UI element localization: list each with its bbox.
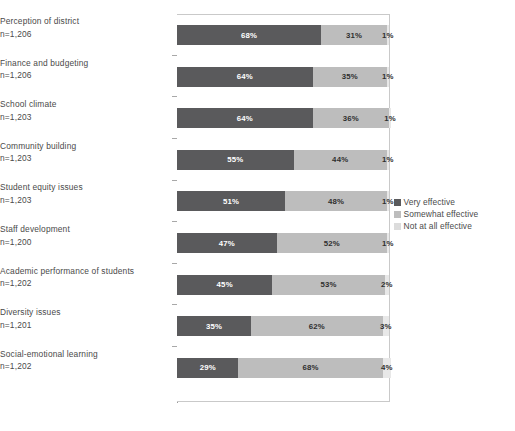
legend-swatch-icon — [394, 199, 401, 206]
bar-segment-value: 1% — [382, 239, 394, 248]
bar-segment-value: 1% — [384, 114, 396, 123]
y-axis-tick — [172, 138, 177, 139]
plot-area: 68%31%1%64%35%1%64%36%1%55%44%1%51%48%1%… — [177, 14, 390, 402]
bar-row: 64%36%1% — [177, 108, 389, 128]
bar-segment: 52% — [277, 233, 387, 253]
bar-segment-value: 1% — [382, 197, 394, 206]
y-axis-tick — [172, 96, 177, 97]
bar-segment-value: 45% — [217, 280, 233, 289]
category-label-count: n=1,200 — [0, 236, 166, 249]
category-label: Community buildingn=1,203 — [0, 140, 168, 165]
bar-row: 47%52%1% — [177, 233, 389, 253]
category-label: Social-emotional learningn=1,202 — [0, 348, 168, 373]
category-label-count: n=1,203 — [0, 152, 166, 165]
y-axis-tick — [172, 346, 177, 347]
y-axis-tick — [172, 263, 177, 264]
bar-segment-value: 64% — [237, 72, 253, 81]
bar-segment: 64% — [177, 67, 313, 87]
bar-segment-value: 1% — [382, 31, 394, 40]
bar-segment: 68% — [177, 25, 321, 45]
y-axis-tick — [172, 55, 177, 56]
bar-segment: 45% — [177, 275, 272, 295]
y-axis-tick — [172, 304, 177, 305]
bar-segment-value: 48% — [328, 197, 344, 206]
bar-segment-value: 4% — [381, 363, 393, 372]
category-label: Finance and budgetingn=1,206 — [0, 57, 168, 82]
bar-segment: 1% — [387, 191, 389, 211]
category-label: School climaten=1,203 — [0, 98, 168, 123]
category-label-name: School climate — [0, 98, 166, 111]
bar-segment-value: 64% — [237, 114, 253, 123]
bar-segment-value: 68% — [302, 363, 318, 372]
bar-segment: 31% — [321, 25, 387, 45]
bar-segment: 1% — [387, 233, 389, 253]
bar-segment: 51% — [177, 191, 285, 211]
bar-row: 64%35%1% — [177, 67, 389, 87]
bar-segment-value: 51% — [223, 197, 239, 206]
category-label-count: n=1,203 — [0, 194, 166, 207]
legend-item[interactable]: Somewhat effective — [394, 209, 512, 221]
bar-segment: 1% — [389, 108, 391, 128]
bar-segment: 48% — [285, 191, 387, 211]
category-label-count: n=1,203 — [0, 111, 166, 124]
category-label-count: n=1,202 — [0, 360, 166, 373]
bar-segment-value: 1% — [382, 155, 394, 164]
bar-row: 55%44%1% — [177, 150, 389, 170]
legend-item-label: Very effective — [404, 197, 456, 208]
bar-segment-value: 62% — [309, 322, 325, 331]
bar-segment: 35% — [177, 316, 251, 336]
bar-segment-value: 36% — [343, 114, 359, 123]
bar-segment-value: 53% — [320, 280, 336, 289]
bar-segment: 29% — [177, 358, 238, 378]
bar-segment: 68% — [238, 358, 382, 378]
bar-segment: 62% — [251, 316, 382, 336]
category-label-name: Diversity issues — [0, 306, 166, 319]
bar-segment: 1% — [387, 25, 389, 45]
category-label-name: Student equity issues — [0, 181, 166, 194]
bar-segment: 55% — [177, 150, 294, 170]
category-label-name: Perception of district — [0, 15, 166, 28]
category-label-name: Staff development — [0, 223, 166, 236]
bar-row: 51%48%1% — [177, 191, 389, 211]
bar-segment: 1% — [387, 150, 389, 170]
bar-row: 68%31%1% — [177, 25, 389, 45]
legend-item-label: Somewhat effective — [404, 209, 479, 220]
bar-segment-value: 31% — [346, 31, 362, 40]
chart-legend: Very effectiveSomewhat effectiveNot at a… — [394, 197, 512, 233]
bar-segment-value: 68% — [241, 31, 257, 40]
category-label: Academic performance of studentsn=1,202 — [0, 265, 176, 290]
bar-segment: 64% — [177, 108, 313, 128]
category-label-name: Social-emotional learning — [0, 348, 166, 361]
category-label-column: Perception of districtn=1,206Finance and… — [0, 14, 176, 402]
bar-segment: 1% — [387, 67, 389, 87]
bar-segment: 36% — [313, 108, 389, 128]
bar-segment-value: 55% — [227, 155, 243, 164]
category-label-count: n=1,206 — [0, 28, 166, 41]
bar-segment-value: 35% — [206, 322, 222, 331]
category-label-name: Finance and budgeting — [0, 57, 166, 70]
category-label-count: n=1,201 — [0, 319, 166, 332]
bar-segment-value: 1% — [382, 72, 394, 81]
bar-segment: 47% — [177, 233, 277, 253]
category-label-name: Academic performance of students — [0, 265, 174, 278]
bar-row: 35%62%3% — [177, 316, 389, 336]
category-label: Diversity issuesn=1,201 — [0, 306, 168, 331]
legend-item-label: Not at all effective — [404, 221, 472, 232]
bar-segment-value: 47% — [219, 239, 235, 248]
category-label: Staff developmentn=1,200 — [0, 223, 168, 248]
bar-segment-value: 35% — [342, 72, 358, 81]
bar-segment: 35% — [313, 67, 387, 87]
bar-segment: 2% — [385, 275, 389, 295]
bar-segment-value: 44% — [332, 155, 348, 164]
bar-segment-value: 3% — [380, 322, 392, 331]
category-label: Student equity issuesn=1,203 — [0, 181, 168, 206]
legend-item[interactable]: Very effective — [394, 197, 512, 209]
legend-swatch-icon — [394, 223, 401, 230]
bar-segment-value: 52% — [324, 239, 340, 248]
legend-item[interactable]: Not at all effective — [394, 221, 512, 233]
bar-row: 29%68%4% — [177, 358, 389, 378]
category-label-count: n=1,202 — [0, 277, 174, 290]
category-label-count: n=1,206 — [0, 69, 166, 82]
bar-row: 45%53%2% — [177, 275, 389, 295]
stacked-bar-chart: Perception of districtn=1,206Finance and… — [0, 0, 515, 431]
